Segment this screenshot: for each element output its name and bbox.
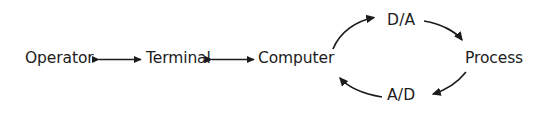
node-label-computer: Computer (258, 51, 334, 67)
node-label-operator: Operator (25, 51, 94, 67)
connector-ad-computer (340, 78, 382, 97)
connector-da-process (424, 21, 462, 40)
node-label-process: Process (465, 51, 523, 67)
block-diagram: Operator Terminal Computer Process D/A A… (0, 0, 536, 114)
node-label-terminal: Terminal (146, 51, 211, 67)
converter-label-ad: A/D (387, 88, 415, 104)
connector-process-ad (433, 72, 466, 94)
converter-label-da: D/A (387, 13, 415, 29)
connector-computer-da (333, 18, 374, 50)
